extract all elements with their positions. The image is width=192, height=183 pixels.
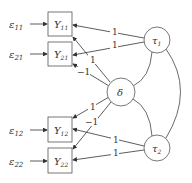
svg-text:1: 1 [113,135,119,145]
error-e21: ε21 [9,49,23,62]
svg-text:−1: −1 [85,117,98,127]
svg-text:1: 1 [90,55,96,65]
error-e12: ε12 [9,125,24,138]
svg-text:ε21: ε21 [9,49,23,62]
svg-text:1: 1 [112,27,118,37]
svg-text:ε11: ε11 [9,19,23,32]
svg-text:ε22: ε22 [9,156,24,169]
svg-text:1: 1 [90,102,96,112]
error-arrows [30,24,47,161]
svg-text:ε12: ε12 [9,125,24,138]
svg-text:1: 1 [113,148,119,158]
covariance-curves [133,49,181,138]
svg-text:1: 1 [112,40,118,50]
error-e22: ε22 [9,156,24,169]
label-delta: δ [117,87,123,98]
path-diagram: ε11 ε21 ε12 ε22 Y11 Y21 Y12 Y22 1 [0,0,192,183]
error-e11: ε11 [9,19,23,32]
svg-text:−1: −1 [77,67,90,77]
